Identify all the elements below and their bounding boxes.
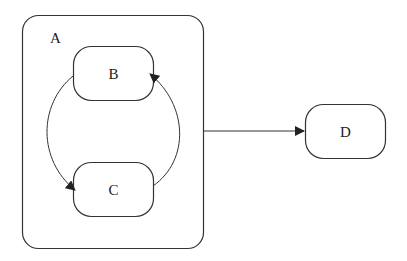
state-c-label: C [108, 182, 118, 198]
state-a-label: A [50, 30, 61, 46]
statechart-diagram: A B C D [0, 0, 407, 261]
state-d-label: D [340, 124, 351, 140]
state-c[interactable]: C [74, 163, 154, 217]
state-b-label: B [108, 66, 118, 82]
state-d[interactable]: D [306, 105, 386, 159]
state-b[interactable]: B [74, 47, 154, 101]
transition-b-to-c[interactable] [47, 76, 75, 190]
transition-c-to-b[interactable] [150, 74, 180, 186]
